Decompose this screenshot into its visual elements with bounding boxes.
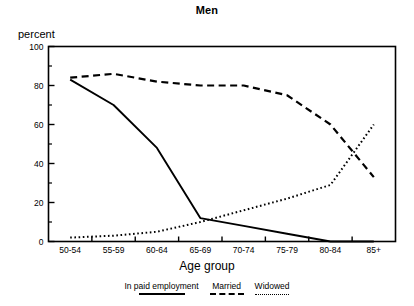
chart-figure: Men percent 020406080100 50-5455-5960-64… — [0, 0, 414, 306]
y-axis-tick-label: 40 — [34, 159, 44, 169]
y-axis-tick-label: 60 — [34, 120, 44, 130]
x-axis-tick-label: 65-69 — [189, 245, 211, 255]
legend-swatch-solid-icon — [139, 293, 185, 300]
axes — [49, 47, 396, 242]
x-axis-tick-label: 60-64 — [146, 245, 168, 255]
series-line — [70, 80, 374, 242]
y-axis-tick-label: 20 — [34, 198, 44, 208]
series-line — [70, 74, 374, 177]
x-axis-tick-label: 80-84 — [320, 245, 342, 255]
y-axis-tick-label: 100 — [29, 42, 43, 52]
x-axis-tick-label: 50-54 — [59, 245, 81, 255]
legend-label: In paid employment — [124, 281, 198, 291]
legend-label: Widowed — [255, 281, 290, 291]
x-axis-label: Age group — [0, 259, 414, 273]
series-lines — [70, 74, 374, 242]
legend-label: Married — [212, 281, 241, 291]
y-axis-tick-label: 80 — [34, 81, 44, 91]
legend-item-widowed: Widowed — [255, 281, 290, 300]
series-line — [70, 125, 374, 238]
plot-frame — [49, 47, 396, 242]
x-axis-tick-label: 75-79 — [276, 245, 298, 255]
chart-legend: In paid employment Married Widowed — [0, 281, 414, 300]
x-axis-ticks: 50-5455-5960-6465-6970-7475-7980-8485+ — [59, 237, 381, 255]
y-axis-tick-label: 0 — [39, 237, 44, 247]
legend-swatch-dashed-icon — [210, 293, 244, 300]
x-axis-tick-label: 70-74 — [233, 245, 255, 255]
legend-item-in-paid-employment: In paid employment — [124, 281, 198, 300]
legend-swatch-dotted-icon — [255, 294, 289, 300]
legend-item-married: Married — [210, 281, 244, 300]
x-axis-tick-label: 85+ — [367, 245, 381, 255]
y-axis-ticks: 020406080100 — [29, 42, 54, 247]
x-axis-tick-label: 55-59 — [103, 245, 125, 255]
